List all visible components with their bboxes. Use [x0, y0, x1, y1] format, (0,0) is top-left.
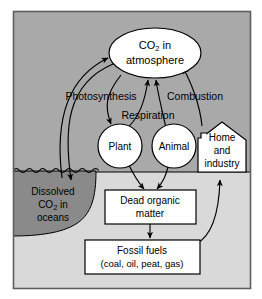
node-fossil-fuels[interactable]: Fossil fuels (coal, oil, peat, gas) [85, 240, 200, 274]
node-atmosphere[interactable]: CO2 in atmosphere [109, 28, 201, 78]
label-respiration: Respiration [121, 109, 174, 121]
atmosphere-co2-text: CO [139, 39, 156, 51]
atmosphere-in-text: in [160, 39, 172, 51]
dead-organic-matter-line1: Dead organic [120, 195, 179, 206]
ocean-line3: oceans [37, 212, 69, 223]
node-plant[interactable]: Plant [98, 124, 142, 168]
ocean-co2-text: CO [38, 199, 53, 210]
carbon-cycle-diagram: Photosynthesis Respiration Combustion CO… [0, 0, 262, 299]
ocean-line1: Dissolved [31, 186, 74, 197]
home-line2: and [214, 145, 231, 156]
node-animal[interactable]: Animal [152, 124, 196, 168]
atmosphere-line1: CO2 in [139, 39, 171, 53]
fossil-fuels-line1: Fossil fuels [117, 245, 167, 256]
label-combustion: Combustion [167, 90, 223, 102]
ocean-in-text: in [57, 199, 68, 210]
home-line3: industry [204, 158, 239, 169]
fossil-fuels-line2: (coal, oil, peat, gas) [101, 258, 184, 269]
plant-label: Plant [109, 141, 132, 152]
node-dead-organic-matter[interactable]: Dead organic matter [105, 190, 196, 224]
atmosphere-line2: atmosphere [126, 54, 184, 66]
dead-organic-matter-line2: matter [136, 208, 165, 219]
label-photosynthesis: Photosynthesis [65, 90, 136, 102]
diagram-canvas: Photosynthesis Respiration Combustion CO… [0, 0, 262, 299]
home-line1: Home [209, 132, 236, 143]
animal-label: Animal [159, 141, 190, 152]
